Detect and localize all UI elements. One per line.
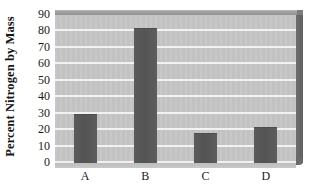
y-axis-tick-label: 80 bbox=[38, 24, 50, 36]
y-axis-tick-label: 0 bbox=[44, 156, 50, 168]
y-axis-tick-labels: 0102030405060708090 bbox=[20, 14, 53, 160]
y-axis-tick-label: 40 bbox=[38, 90, 50, 102]
y-axis-tick-label: 30 bbox=[38, 107, 50, 119]
y-axis-tick-label: 10 bbox=[38, 140, 50, 152]
plot-right-wall-foot bbox=[296, 158, 303, 165]
y-axis-tick-label: 50 bbox=[38, 74, 50, 86]
y-axis-title-text: Percent Nitrogen by Mass bbox=[3, 16, 18, 156]
y-axis-tick-label: 70 bbox=[38, 41, 50, 53]
x-axis-tick-label-c: C bbox=[202, 170, 210, 182]
plot-floor bbox=[55, 163, 296, 168]
gridline bbox=[55, 29, 296, 31]
x-axis-tick-label-d: D bbox=[262, 170, 271, 182]
bar-a bbox=[74, 114, 97, 163]
gridline bbox=[55, 79, 296, 81]
plot-area bbox=[55, 15, 296, 163]
x-axis-tick-labels: ABCD bbox=[55, 170, 296, 192]
y-axis-title: Percent Nitrogen by Mass bbox=[0, 0, 20, 172]
plot-right-wall bbox=[296, 15, 303, 163]
y-axis-tick-label: 60 bbox=[38, 57, 50, 69]
y-axis-tick-label: 20 bbox=[38, 123, 50, 135]
bar-c bbox=[194, 133, 217, 163]
x-axis-tick-label-b: B bbox=[141, 170, 149, 182]
gridline bbox=[55, 46, 296, 48]
bar-chart: Percent Nitrogen by Mass 010203040506070… bbox=[0, 0, 309, 194]
gridline bbox=[55, 95, 296, 97]
bar-b bbox=[134, 28, 157, 163]
y-axis-tick-label: 90 bbox=[38, 8, 50, 20]
bar-d bbox=[254, 127, 277, 163]
gridline bbox=[55, 62, 296, 64]
x-axis-tick-label-a: A bbox=[81, 170, 90, 182]
